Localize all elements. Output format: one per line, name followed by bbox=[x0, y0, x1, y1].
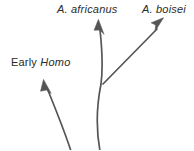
boisei-branch bbox=[103, 18, 164, 84]
taxon-label-early-homo: Early Homo bbox=[11, 56, 70, 68]
africanus-arrowhead-icon bbox=[94, 20, 104, 35]
taxon-label-early-homo-qualifier: Early bbox=[11, 56, 37, 68]
phylogeny-diagram: A. africanus A. boisei Early Homo bbox=[0, 0, 194, 150]
taxon-label-a-boisei: A. boisei bbox=[142, 3, 186, 15]
taxon-label-a-boisei-text: A. boisei bbox=[142, 3, 186, 15]
taxon-label-early-homo-genus: Homo bbox=[40, 56, 70, 68]
phylogeny-branches-svg bbox=[0, 0, 194, 150]
africanus-branch bbox=[94, 20, 104, 151]
early-homo-arrowhead-icon bbox=[41, 80, 52, 94]
early-homo-branch bbox=[41, 80, 71, 151]
boisei-branch-line bbox=[103, 29, 157, 84]
early-homo-branch-line bbox=[47, 88, 71, 150]
taxon-label-a-africanus-text: A. africanus bbox=[57, 3, 117, 15]
taxon-label-a-africanus: A. africanus bbox=[57, 3, 117, 15]
africanus-branch-line bbox=[97, 30, 102, 150]
